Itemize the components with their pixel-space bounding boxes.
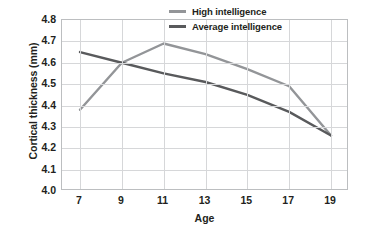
gridline-vertical — [80, 20, 81, 189]
gridline-vertical — [331, 20, 332, 189]
gridline-vertical — [122, 20, 123, 189]
gridline-horizontal — [62, 41, 347, 42]
gridline-vertical — [247, 20, 248, 189]
y-tick-label: 4.5 — [30, 78, 56, 89]
x-tick-label: 11 — [148, 194, 178, 206]
y-tick-label: 4.2 — [30, 142, 56, 153]
y-axis-tick-labels: 4.04.14.24.34.44.54.64.74.8 — [26, 19, 56, 190]
gridline-horizontal — [62, 84, 347, 85]
legend: High intelligenceAverage intelligence — [169, 5, 287, 35]
legend-item-label: Average intelligence — [192, 21, 282, 32]
gridline-horizontal — [62, 170, 347, 171]
x-tick-label: 9 — [106, 194, 136, 206]
x-axis-tick-labels: 791113151719 — [61, 194, 348, 208]
x-axis-label: Age — [61, 212, 348, 224]
y-tick-label: 4.0 — [30, 185, 56, 196]
gridline-vertical — [206, 20, 207, 189]
legend-line-swatch-icon — [169, 10, 186, 13]
x-tick-label: 19 — [315, 194, 345, 206]
gridline-horizontal — [62, 127, 347, 128]
y-tick-label: 4.7 — [30, 35, 56, 46]
gridline-horizontal — [62, 148, 347, 149]
legend-item[interactable]: High intelligence — [169, 5, 287, 18]
gridline-horizontal — [62, 106, 347, 107]
gridline-vertical — [289, 20, 290, 189]
line-chart-figure: Cortical thickness (mm) 4.04.14.24.34.44… — [0, 0, 385, 240]
y-tick-label: 4.4 — [30, 100, 56, 111]
legend-item[interactable]: Average intelligence — [169, 20, 287, 33]
plot-area — [61, 19, 348, 190]
gridline-vertical — [164, 20, 165, 189]
gridline-horizontal — [62, 63, 347, 64]
legend-line-swatch-icon — [169, 25, 186, 28]
y-tick-label: 4.1 — [30, 164, 56, 175]
y-tick-label: 4.6 — [30, 57, 56, 68]
x-tick-label: 7 — [64, 194, 94, 206]
y-tick-label: 4.3 — [30, 121, 56, 132]
x-tick-label: 17 — [273, 194, 303, 206]
y-tick-label: 4.8 — [30, 14, 56, 25]
x-tick-label: 15 — [231, 194, 261, 206]
legend-item-label: High intelligence — [192, 6, 266, 17]
x-tick-label: 13 — [190, 194, 220, 206]
